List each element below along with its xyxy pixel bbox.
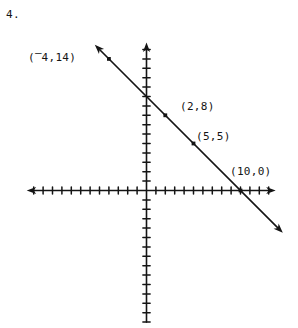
- data-point-marker: [163, 113, 167, 117]
- point-label-5-5: (5,5): [196, 131, 231, 142]
- y-axis: [143, 43, 150, 323]
- data-point-marker: [107, 57, 111, 61]
- point-label-10-0: (10,0): [230, 166, 272, 177]
- line-stroke: [100, 50, 278, 228]
- point-label-open-paren: (: [28, 51, 35, 64]
- plotted-line: [95, 45, 283, 233]
- coordinate-plane-svg: [0, 0, 298, 328]
- data-point-marker: [239, 189, 243, 193]
- graph-figure: 4. (‒4,14) (2,8) (5,5) (10,0): [0, 0, 298, 328]
- negative-sign-superscript: ‒: [35, 46, 42, 59]
- data-point-marker: [192, 142, 196, 146]
- problem-number: 4.: [6, 9, 20, 20]
- point-label-2-8: (2,8): [180, 101, 215, 112]
- point-label-neg4-14: (‒4,14): [28, 52, 76, 63]
- point-label-value: 4,14): [42, 51, 77, 64]
